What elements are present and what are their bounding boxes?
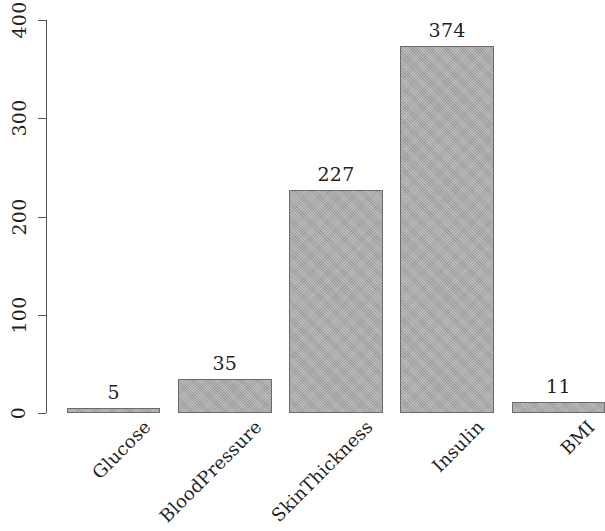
y-axis-tick-label: 0 [0, 397, 36, 429]
y-axis-tick-label: 400 [0, 4, 36, 36]
y-axis-tick-mark [38, 217, 46, 218]
y-axis-tick-label: 300 [0, 102, 36, 134]
bar [400, 46, 493, 413]
bar-value-label: 227 [289, 163, 382, 185]
y-axis-tick-label: 100 [0, 299, 36, 331]
bar-value-label: 11 [512, 375, 605, 397]
y-axis-tick-mark [38, 413, 46, 414]
bar [289, 190, 382, 413]
y-axis-tick-mark [38, 20, 46, 21]
x-axis-category-label: SkinThickness [267, 416, 377, 526]
y-axis-tick-mark [38, 118, 46, 119]
bar [67, 408, 160, 413]
plot-area: 53522737411 [47, 10, 603, 413]
y-axis-tick-label: 200 [0, 201, 36, 233]
bar-value-label: 35 [178, 352, 271, 374]
x-axis-category-label: Insulin [428, 416, 488, 476]
x-axis-category-label: BloodPressure [155, 416, 266, 527]
y-axis-tick-mark [38, 315, 46, 316]
bar-value-label: 374 [400, 19, 493, 41]
bar [178, 379, 271, 413]
x-axis-labels: GlucoseBloodPressureSkinThicknessInsulin… [47, 416, 603, 531]
bar-value-label: 5 [67, 381, 160, 403]
bar [512, 402, 605, 413]
x-axis-category-label: BMI [557, 416, 600, 459]
x-axis-category-label: Glucose [87, 416, 154, 483]
